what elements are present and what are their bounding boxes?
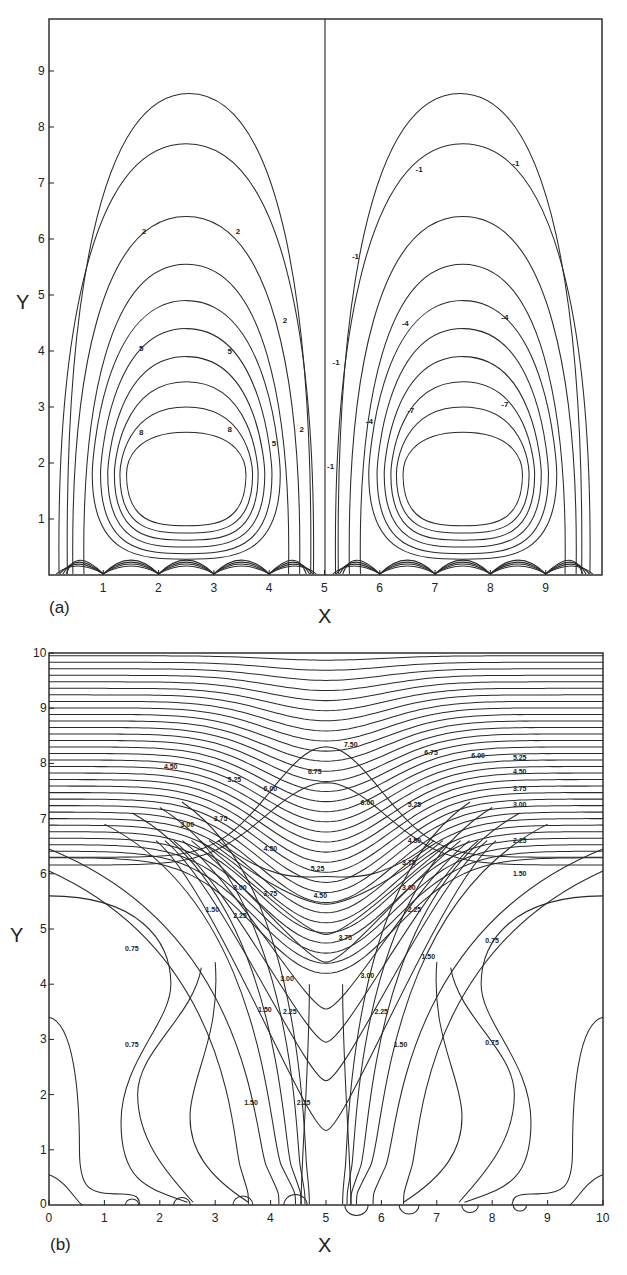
contour-label: -1 (416, 165, 424, 174)
streamline (349, 217, 576, 574)
contour-label: 1.50 (394, 1041, 408, 1048)
streamline (335, 144, 590, 574)
streamline (67, 93, 311, 573)
contour-label: 6.75 (424, 749, 438, 756)
isoline (49, 1175, 82, 1205)
y-tick-label: 2 (40, 1088, 47, 1102)
isoline (191, 841, 460, 962)
contour-label: 1.50 (205, 906, 219, 913)
streamline (403, 432, 522, 526)
y-tick-label: 7 (40, 812, 47, 826)
contour-label: 0.75 (125, 945, 139, 952)
contour-label: 3.75 (214, 815, 228, 822)
contour-label: 3.75 (338, 934, 352, 941)
streamline (101, 329, 272, 554)
streamline (114, 382, 258, 540)
contour-label: -1 (512, 159, 520, 168)
y-tick-label: 2 (38, 456, 45, 470)
x-tick-label: 1 (100, 581, 107, 595)
contour-label: 2 (299, 425, 304, 434)
x-tick-label: 2 (155, 581, 162, 595)
contour-label: 2.25 (233, 912, 247, 919)
contour-label: 3.00 (280, 975, 294, 982)
isoline (49, 786, 603, 862)
contour-label: 8 (139, 428, 144, 437)
x-tick-label: 4 (266, 581, 273, 595)
streamline (384, 357, 541, 547)
isoline (182, 802, 309, 1204)
contour-label: 5.25 (311, 865, 325, 872)
contour-label: -4 (366, 417, 374, 426)
contour-label: 5.25 (513, 754, 527, 761)
isoline (451, 968, 515, 1203)
isoline (49, 656, 603, 660)
contour-label: 2 (283, 316, 288, 325)
contour-label: 2.25 (297, 1099, 311, 1106)
panel-b-label: (b) (50, 1235, 71, 1254)
isoline (132, 813, 301, 1204)
x-tick-label: 6 (376, 581, 383, 595)
contour-label: 4.50 (313, 892, 327, 899)
isoline (138, 968, 202, 1203)
y-tick-label: 6 (40, 867, 47, 881)
contour-label: -4 (402, 319, 410, 328)
contour-label: 2.25 (283, 1008, 297, 1015)
contour-label: 1.50 (513, 870, 527, 877)
contour-label: 6.00 (361, 799, 375, 806)
y-tick-label: 6 (38, 232, 45, 246)
y-tick-label: 8 (40, 756, 47, 770)
x-tick-label: 7 (432, 581, 439, 595)
contour-label: 2.25 (408, 906, 422, 913)
isoline (49, 682, 603, 701)
contour-label: 2 (142, 227, 147, 236)
contour-label: 3.00 (513, 801, 527, 808)
streamline (108, 357, 265, 547)
x-tick-label: 8 (487, 581, 494, 595)
y-tick-label: 4 (40, 977, 47, 991)
isoline (49, 708, 603, 741)
contour-label: 3.75 (264, 890, 278, 897)
x-tick-label: 7 (433, 1211, 440, 1225)
isoline (125, 1199, 138, 1205)
streamline (369, 301, 557, 560)
y-tick-label: 4 (38, 344, 45, 358)
contour-label: 5 (139, 344, 144, 353)
isoline (49, 688, 603, 710)
y-tick-label: 9 (38, 64, 45, 78)
isoline (345, 1205, 368, 1216)
y-tick-label: 7 (38, 176, 45, 190)
contour-label: 4.50 (164, 763, 178, 770)
isoline (373, 849, 603, 1204)
streamline (377, 329, 548, 554)
streamline (73, 217, 300, 574)
isoline (570, 1175, 603, 1205)
isoline (49, 701, 603, 731)
x-tick-label: 9 (542, 581, 549, 595)
isoline (462, 1205, 479, 1213)
panel-b-contour-labels: 7.506.756.005.256.755.254.506.006.005.25… (125, 741, 527, 1107)
contour-label: 5 (227, 347, 232, 356)
x-tick-label: 9 (544, 1211, 551, 1225)
contour-label: 2.25 (513, 837, 527, 844)
x-tick-label: 5 (321, 581, 328, 595)
y-tick-label: 8 (38, 120, 45, 134)
contour-label: 1.50 (258, 1006, 272, 1013)
contour-label: 1.50 (244, 1099, 258, 1106)
panel-a: 222255588-1-1-1-1-1-4-4-4-7-7 1234567891… (16, 19, 602, 627)
panel-b-contours (49, 656, 603, 1216)
panel-b-xlabel: X (318, 1234, 331, 1256)
contour-label: 6.00 (471, 752, 485, 759)
isoline (49, 806, 603, 893)
contour-label: -7 (501, 400, 509, 409)
y-tick-label: 1 (38, 512, 45, 526)
streamline (360, 264, 565, 574)
contour-label: 3.75 (513, 785, 527, 792)
contour-label: -1 (327, 462, 335, 471)
contour-label: 3.00 (233, 884, 247, 891)
x-tick-label: 0 (46, 1211, 53, 1225)
contour-label: 4.50 (264, 845, 278, 852)
isoline (49, 871, 248, 1204)
panel-a-ylabel: Y (16, 291, 29, 313)
panel-b: 7.506.756.005.256.755.254.506.006.005.25… (10, 646, 610, 1256)
x-tick-label: 3 (210, 581, 217, 595)
